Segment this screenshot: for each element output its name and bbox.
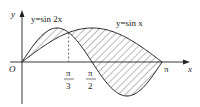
y-axis-label: y [10, 9, 15, 19]
x-axis-label: x [187, 64, 192, 74]
tick-pi-3-den: 3 [66, 81, 71, 91]
label-sin-x: y=sin x [116, 18, 143, 28]
y-axis-arrow-icon [20, 10, 25, 17]
tick-pi: π [164, 64, 169, 74]
tick-pi-2-num: π [88, 68, 93, 78]
label-sin-2x: y=sin 2x [31, 14, 63, 24]
area-between-curves-diagram: y=sin 2x y=sin x y x O π 3 π 2 π [0, 0, 200, 107]
tick-pi-2-den: 2 [88, 81, 93, 91]
tick-pi-3-num: π [66, 68, 71, 78]
origin-label: O [9, 64, 16, 74]
